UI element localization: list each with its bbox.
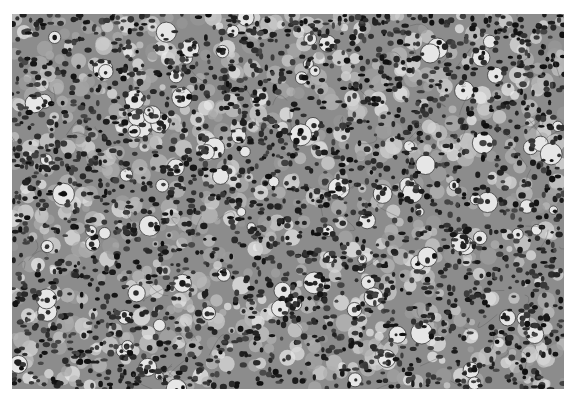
figure-caption-cropped: [14, 392, 564, 400]
histology-micrograph: [12, 14, 564, 389]
figure: [0, 0, 578, 400]
tissue-texture: [12, 14, 564, 389]
